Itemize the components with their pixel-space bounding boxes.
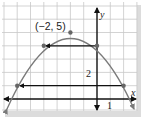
graph-background [2, 2, 137, 111]
y-tick-label: 2 [86, 68, 91, 79]
vertex-point [68, 30, 72, 34]
x-axis-label: x [130, 87, 136, 98]
point-neg4-4 [42, 44, 46, 48]
x-tick-label: 1 [107, 100, 112, 111]
y-axis-label: y [99, 9, 105, 20]
point-2-1 [121, 84, 125, 88]
vertex-label: (−2, 5) [35, 20, 66, 32]
parabola-graph: (−2, 5) y x 2 1 [0, 0, 141, 117]
point-neg6-1 [15, 84, 19, 88]
point-0-4 [95, 44, 99, 48]
